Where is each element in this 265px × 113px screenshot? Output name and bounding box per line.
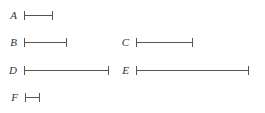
- segment-e: [136, 66, 249, 75]
- segment-c: [136, 38, 193, 47]
- segment-end-tick: [52, 11, 53, 20]
- segment-end-tick: [248, 66, 249, 75]
- segment-f: [25, 93, 40, 102]
- segment-label-a: A: [5, 10, 17, 21]
- segment-line: [136, 42, 192, 43]
- segment-label-f: F: [6, 92, 18, 103]
- segment-line: [24, 42, 66, 43]
- segment-line: [24, 15, 52, 16]
- segment-b: [24, 38, 67, 47]
- segment-label-e: E: [117, 65, 129, 76]
- segment-line: [25, 97, 39, 98]
- segment-d: [24, 66, 109, 75]
- segment-end-tick: [108, 66, 109, 75]
- segment-label-b: B: [5, 37, 17, 48]
- segment-end-tick: [66, 38, 67, 47]
- segment-label-d: D: [5, 65, 17, 76]
- segment-end-tick: [192, 38, 193, 47]
- segment-a: [24, 11, 53, 20]
- segment-line: [136, 70, 248, 71]
- segment-line: [24, 70, 108, 71]
- segment-end-tick: [39, 93, 40, 102]
- segment-label-c: C: [117, 37, 129, 48]
